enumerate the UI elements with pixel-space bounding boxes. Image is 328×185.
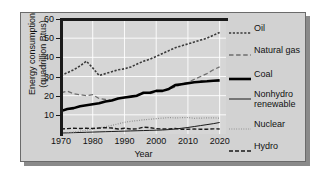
plot-svg [61,19,226,134]
x-tick-label: 2000 [139,137,173,146]
legend-line-sample-icon [229,46,251,56]
legend-item-nonhydro-renewable[interactable]: Nonhydro renewable [229,89,296,109]
legend-label: Nuclear [254,119,285,129]
legend-item-natural-gas[interactable]: Natural gas [229,45,300,56]
legend-label: Nonhydro renewable [254,89,296,109]
legend-line-sample-icon [229,120,251,130]
series-line-hydro [61,127,220,129]
legend-label: Coal [254,69,273,79]
legend-item-nuclear[interactable]: Nuclear [229,119,285,130]
plot-area [61,19,226,134]
y-tick-label: 60 [28,15,54,24]
x-axis-label: Year [61,149,226,159]
legend-line-sample-icon [229,24,251,34]
top-axis-spine [60,18,228,21]
y-tick-label: 50 [28,34,54,43]
legend-item-coal[interactable]: Coal [229,69,273,80]
x-tick-label: 1970 [44,137,78,146]
y-tick-label: 40 [28,53,54,62]
x-tick-label: 1980 [76,137,110,146]
legend-line-sample-icon [229,142,251,152]
x-tick-label: 1990 [107,137,141,146]
y-tick-label: 20 [28,92,54,101]
y-axis-spine [60,18,63,136]
figure: Energy consumption (quadrillion Btus) 10… [0,0,328,185]
series-line-oil [61,32,220,75]
y-tick-label: 10 [28,111,54,120]
legend-line-sample-icon [229,70,251,80]
x-tick-label: 2010 [171,137,205,146]
legend-item-hydro[interactable]: Hydro [229,141,278,152]
legend-label: Natural gas [254,45,300,55]
legend: OilNatural gasCoalNonhydro renewableNucl… [229,17,305,157]
series-lines [61,32,220,133]
chart-panel: Energy consumption (quadrillion Btus) 10… [20,12,306,162]
y-tick-label: 30 [28,73,54,82]
legend-line-sample-icon [229,90,251,100]
legend-label: Oil [254,23,265,33]
legend-item-oil[interactable]: Oil [229,23,265,34]
legend-label: Hydro [254,141,278,151]
